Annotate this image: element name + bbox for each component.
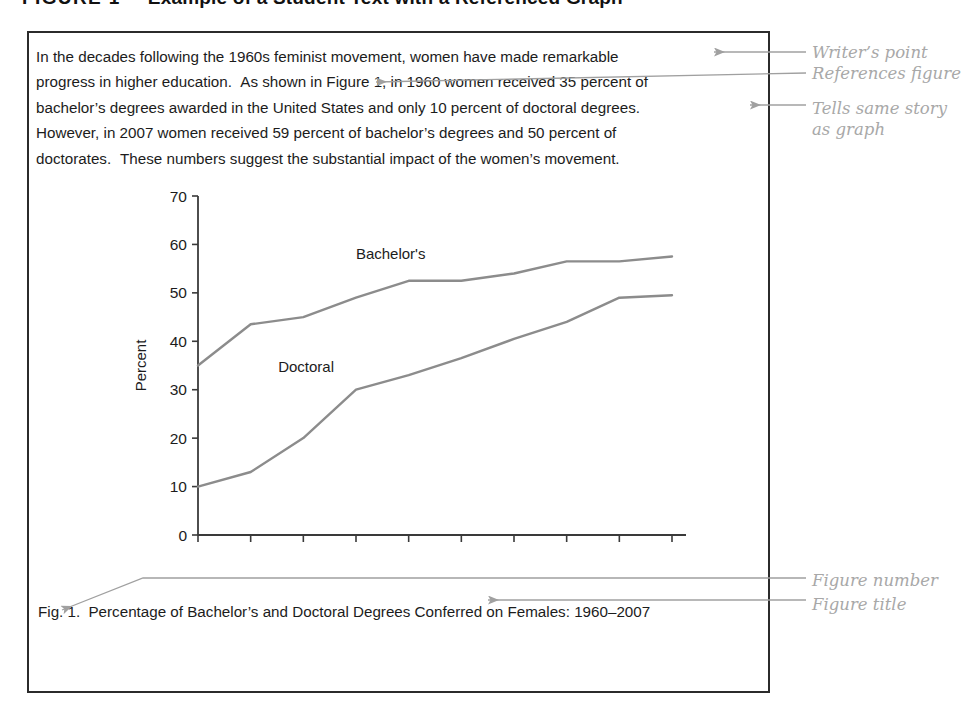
chart-x-tick-label: 1970 — [233, 546, 268, 550]
chart-x-tick-label: 1990 — [444, 546, 479, 550]
chart-series-line-doctoral — [198, 295, 672, 486]
chart-y-tick-label: 70 — [170, 188, 188, 205]
annotation-figure-number: Figure number — [812, 570, 938, 591]
chart-series-label-bachelors: Bachelor's — [356, 245, 426, 262]
chart-x-tick-label: 2007 — [655, 546, 689, 550]
figure-heading-number: FIGURE 1 — [22, 0, 121, 8]
figure-heading: FIGURE 1 Example of a Student Text with … — [22, 0, 722, 11]
chart-series-label-doctoral: Doctoral — [278, 358, 334, 375]
chart-x-tick-label: 1985 — [391, 546, 425, 550]
figure-caption: Fig. 1. Percentage of Bachelor’s and Doc… — [38, 603, 650, 620]
student-text-line-5a: doctorates. — [36, 150, 111, 167]
chart-canvas: 0102030405060701960197019751980198519901… — [120, 185, 690, 550]
chart-x-tick-label: 2005 — [602, 546, 636, 550]
student-text-line-3: bachelor’s degrees awarded in the United… — [36, 99, 640, 116]
student-text-line-2b: As shown in Figure 1, in 1960 women rece… — [240, 73, 648, 90]
figure-heading-title: Example of a Student Text with a Referen… — [148, 0, 623, 8]
student-text-line-4: However, in 2007 women received 59 perce… — [36, 124, 616, 141]
annotation-tells-same-story-line-2: as graph — [812, 119, 947, 140]
chart-y-tick-label: 30 — [170, 381, 188, 398]
chart-x-tick-label: 1980 — [339, 546, 374, 550]
chart-x-tick-label: 2000 — [549, 546, 584, 550]
annotation-references-figure: References figure — [812, 63, 961, 84]
chart-y-tick-label: 50 — [170, 284, 188, 301]
annotation-figure-title: Figure title — [812, 594, 906, 615]
chart-x-tick-label: 1995 — [497, 546, 531, 550]
chart-y-tick-label: 40 — [170, 333, 188, 350]
referenced-line-chart: 0102030405060701960197019751980198519901… — [120, 185, 690, 550]
student-text-line-5b: These numbers suggest the substantial im… — [120, 150, 619, 167]
student-text-line-1: In the decades following the 1960s femin… — [36, 48, 619, 65]
student-text-line-2a: progress in higher education. — [36, 73, 232, 90]
annotation-tells-same-story-line-1: Tells same story — [812, 98, 947, 119]
annotation-writers-point: Writer’s point — [812, 42, 928, 63]
chart-y-axis-title: Percent — [132, 339, 149, 392]
annotation-tells-same-story: Tells same story as graph — [812, 98, 947, 140]
chart-y-tick-label: 0 — [178, 527, 187, 544]
student-text-paragraph: In the decades following the 1960s femin… — [36, 44, 750, 171]
chart-y-tick-label: 10 — [170, 478, 188, 495]
chart-x-tick-label: 1960 — [181, 546, 216, 550]
chart-y-tick-label: 60 — [170, 236, 188, 253]
chart-series-line-bachelors — [198, 257, 672, 366]
figure-caption-title: Percentage of Bachelor’s and Doctoral De… — [88, 603, 650, 620]
chart-x-tick-label: 1975 — [286, 546, 320, 550]
figure-caption-number: Fig. 1. — [38, 603, 80, 620]
chart-y-tick-label: 20 — [170, 430, 188, 447]
